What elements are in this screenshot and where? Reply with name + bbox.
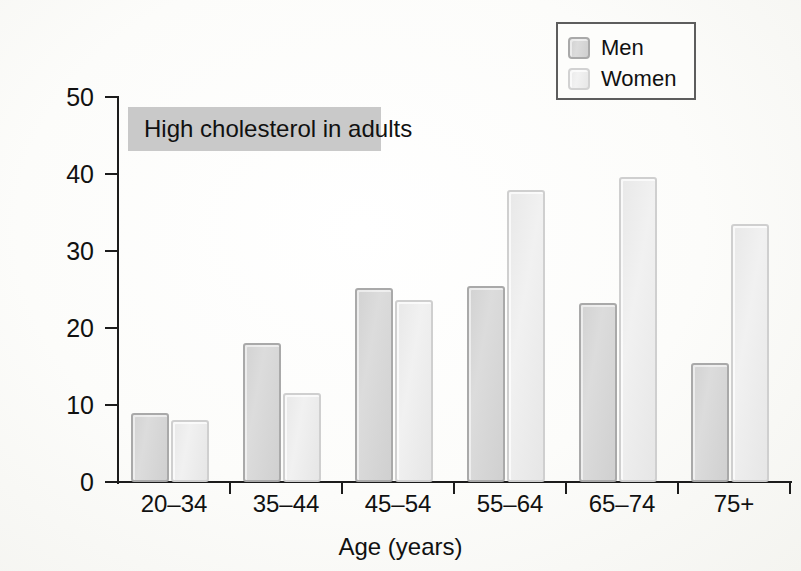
y-axis-tick-label: 50 (0, 83, 94, 111)
bar-chart: High cholesterol in adults Men Women 010… (0, 0, 801, 571)
y-axis-tick (105, 404, 117, 406)
bar-women-75+ (731, 224, 769, 482)
bar-men-55-64 (467, 286, 505, 482)
legend: Men Women (556, 22, 696, 100)
x-axis-tick (789, 481, 791, 494)
bar-men-20-34 (131, 413, 169, 482)
bar-men-45-54 (355, 288, 393, 482)
x-axis-tick (565, 481, 567, 494)
x-axis-tick-label: 55–64 (477, 492, 544, 516)
bar-men-75+ (691, 363, 729, 482)
y-axis-tick-label: 30 (0, 237, 94, 265)
y-axis-tick (105, 250, 117, 252)
bar-women-20-34 (171, 420, 209, 482)
x-axis-tick (341, 481, 343, 494)
x-axis-tick (453, 481, 455, 494)
legend-label-women: Women (601, 68, 676, 90)
x-axis-tick-label: 35–44 (253, 492, 320, 516)
y-axis-tick-label: 10 (0, 391, 94, 419)
x-axis-tick-label: 65–74 (589, 492, 656, 516)
y-axis-tick-label: 40 (0, 160, 94, 188)
x-axis-tick (677, 481, 679, 494)
bar-women-35-44 (283, 393, 321, 482)
x-axis-tick (229, 481, 231, 494)
legend-swatch-women-icon (568, 68, 590, 90)
bar-women-65-74 (619, 177, 657, 482)
y-axis-tick (105, 96, 117, 98)
legend-item-men[interactable]: Men (568, 32, 694, 63)
bar-men-35-44 (243, 343, 281, 482)
plot-area (118, 97, 790, 482)
y-axis-tick-label: 20 (0, 314, 94, 342)
x-axis-tick-label: 45–54 (365, 492, 432, 516)
bar-women-55-64 (507, 190, 545, 482)
bar-women-45-54 (395, 300, 433, 482)
legend-label-men: Men (601, 37, 644, 59)
legend-swatch-men-icon (568, 37, 590, 59)
y-axis-tick (105, 173, 117, 175)
y-axis-tick-label: 0 (0, 468, 94, 496)
legend-item-women[interactable]: Women (568, 63, 694, 94)
bar-men-65-74 (579, 303, 617, 482)
x-axis-tick-label: 75+ (714, 492, 755, 516)
x-axis-tick-label: 20–34 (141, 492, 208, 516)
y-axis-tick (105, 327, 117, 329)
y-axis-tick (105, 481, 117, 483)
x-axis-title: Age (years) (0, 533, 801, 561)
